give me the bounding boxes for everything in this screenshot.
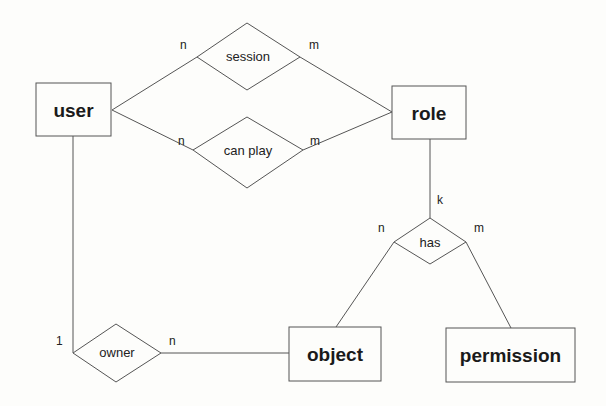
entity-object-label: object: [307, 344, 364, 365]
relationship-owner-label: owner: [99, 345, 135, 360]
relationship-can-play-label: can play: [224, 143, 273, 158]
edge-has-permission: [466, 242, 511, 328]
entity-object[interactable]: object: [289, 327, 381, 381]
entity-permission-label: permission: [460, 345, 561, 366]
relationship-has-label: has: [420, 235, 441, 250]
card-canplay-n: n: [178, 134, 185, 148]
card-has-n: n: [378, 221, 385, 235]
entity-user-label: user: [53, 100, 94, 121]
entity-permission[interactable]: permission: [446, 328, 575, 382]
card-session-m: m: [309, 38, 319, 52]
relationship-session[interactable]: session: [197, 23, 300, 90]
cardinalities: n m n m k n m 1 n: [56, 38, 484, 348]
card-canplay-m: m: [310, 134, 320, 148]
card-owner-1: 1: [56, 334, 63, 348]
edge-user-session: [112, 57, 197, 110]
card-owner-n: n: [169, 334, 176, 348]
er-diagram: user role object permission session can …: [0, 0, 606, 406]
entity-user[interactable]: user: [36, 83, 111, 136]
card-session-n: n: [180, 38, 187, 52]
edge-session-role: [300, 57, 392, 112]
edge-has-object: [336, 242, 394, 327]
relationship-has[interactable]: has: [394, 218, 466, 264]
relationship-can-play[interactable]: can play: [193, 117, 303, 188]
relationship-owner[interactable]: owner: [73, 324, 161, 382]
card-has-m: m: [474, 221, 484, 235]
entity-role[interactable]: role: [392, 86, 466, 139]
entity-role-label: role: [412, 103, 447, 124]
card-has-k: k: [437, 193, 444, 207]
relationship-session-label: session: [226, 49, 270, 64]
